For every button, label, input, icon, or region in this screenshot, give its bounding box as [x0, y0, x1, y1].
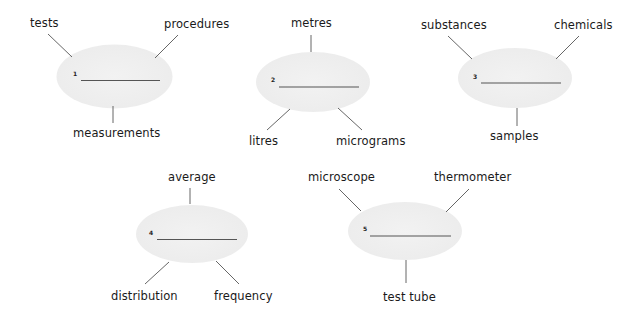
connector-litres	[267, 109, 290, 130]
connector-distribution	[145, 262, 169, 284]
connector-procedures	[155, 35, 178, 58]
item-number-3: 3	[473, 73, 477, 80]
word-samples: samples	[490, 129, 539, 143]
word-average: average	[168, 170, 216, 184]
word-map-exercise: 1 tests procedures measurements 2 metres…	[0, 0, 629, 319]
connector-frequency	[216, 261, 239, 284]
connector-substances	[448, 36, 472, 59]
word-test-tube: test tube	[383, 290, 436, 304]
word-substances: substances	[421, 18, 487, 32]
word-metres: metres	[291, 16, 332, 30]
item-number-5: 5	[363, 225, 367, 232]
word-chemicals: chemicals	[554, 18, 613, 32]
word-microscope: microscope	[308, 170, 375, 184]
word-tests: tests	[30, 16, 59, 30]
connector-microscope	[339, 189, 361, 211]
item-number-2: 2	[271, 76, 275, 83]
word-procedures: procedures	[164, 17, 229, 31]
connector-thermometer	[446, 189, 469, 212]
diagram-graphics	[0, 0, 629, 319]
word-distribution: distribution	[111, 289, 178, 303]
connector-tests	[48, 34, 72, 57]
word-litres: litres	[249, 134, 278, 148]
word-measurements: measurements	[73, 126, 160, 140]
connector-micrograms	[338, 108, 362, 130]
item-number-1: 1	[73, 70, 77, 77]
item-number-4: 4	[149, 229, 153, 236]
word-micrograms: micrograms	[336, 134, 406, 148]
word-thermometer: thermometer	[434, 170, 511, 184]
connector-chemicals	[556, 36, 579, 59]
word-frequency: frequency	[214, 289, 273, 303]
